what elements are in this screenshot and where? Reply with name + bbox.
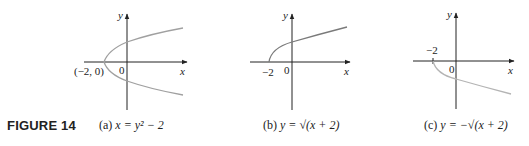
sqrt-curve (269, 27, 347, 62)
tick-label-neg2: −2 (426, 44, 438, 56)
origin-label: 0 (449, 63, 455, 75)
x-axis-label: x (507, 64, 513, 76)
origin-label: 0 (119, 64, 125, 76)
origin-label: 0 (284, 64, 290, 76)
panel-c-graph: y x 0 −2 (413, 8, 514, 109)
x-axis-label: x (343, 65, 349, 77)
caption-equation: y = −√(x + 2) (440, 118, 508, 132)
caption-prefix: (a) (99, 118, 112, 132)
caption-prefix: (c) (424, 118, 437, 132)
x-axis-label: x (179, 65, 185, 77)
caption-prefix: (b) (263, 118, 277, 132)
caption-c: (c) y = −√(x + 2) (424, 118, 508, 133)
y-axis-label: y (117, 9, 123, 21)
vertex-point-label: (−2, 0) (74, 65, 104, 78)
panel-b-graph: y x 0 −2 (250, 9, 350, 110)
caption-equation: y = √(x + 2) (280, 118, 339, 132)
figure-label: FIGURE 14 (7, 118, 76, 133)
caption-b: (b) y = √(x + 2) (263, 118, 339, 133)
caption-equation: x = y² − 2 (115, 118, 163, 132)
y-axis-label: y (282, 9, 288, 21)
panel-a-graph: y x 0 (−2, 0) (74, 9, 187, 110)
neg-sqrt-curve (433, 61, 511, 94)
caption-a: (a) x = y² − 2 (99, 118, 164, 133)
tick-label-neg2: −2 (262, 66, 274, 78)
y-axis-label: y (446, 8, 452, 20)
